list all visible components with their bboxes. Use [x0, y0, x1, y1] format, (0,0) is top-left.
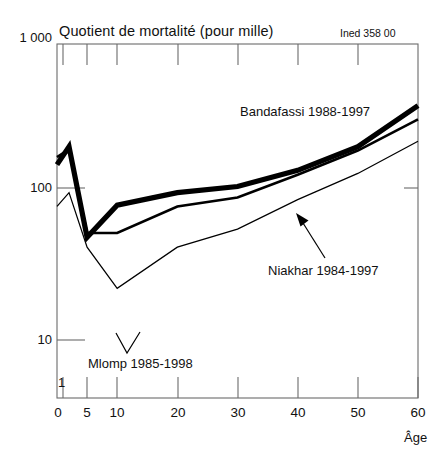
y-tick-label-10: 10	[2, 332, 52, 347]
chart-credit: Ined 358 00	[340, 27, 395, 39]
x-tick-label-50: 50	[346, 405, 370, 420]
series-label-niakhar: Niakhar 1984-1997	[268, 263, 379, 278]
x-tick-label-30: 30	[226, 405, 250, 420]
mortality-quotient-chart	[0, 0, 441, 464]
x-axis-label: Âge	[404, 430, 427, 445]
x-tick-label-0: 0	[50, 405, 66, 420]
y-tick-label-1: 1	[58, 375, 72, 390]
plot-frame	[57, 44, 418, 398]
x-tick-label-60: 60	[406, 405, 430, 420]
x-tick-label-10: 10	[105, 405, 129, 420]
y-tick-label-100: 100	[2, 180, 52, 195]
chart-title: Quotient de mortalité (pour mille)	[59, 23, 274, 39]
x-tick-label-40: 40	[286, 405, 310, 420]
x-tick-label-5: 5	[79, 405, 95, 420]
x-tick-label-20: 20	[166, 405, 190, 420]
series-label-mlomp: Mlomp 1985-1998	[88, 356, 193, 371]
series-label-bandafassi: Bandafassi 1988-1997	[240, 104, 370, 119]
y-tick-label-1000: 1 000	[2, 30, 52, 45]
